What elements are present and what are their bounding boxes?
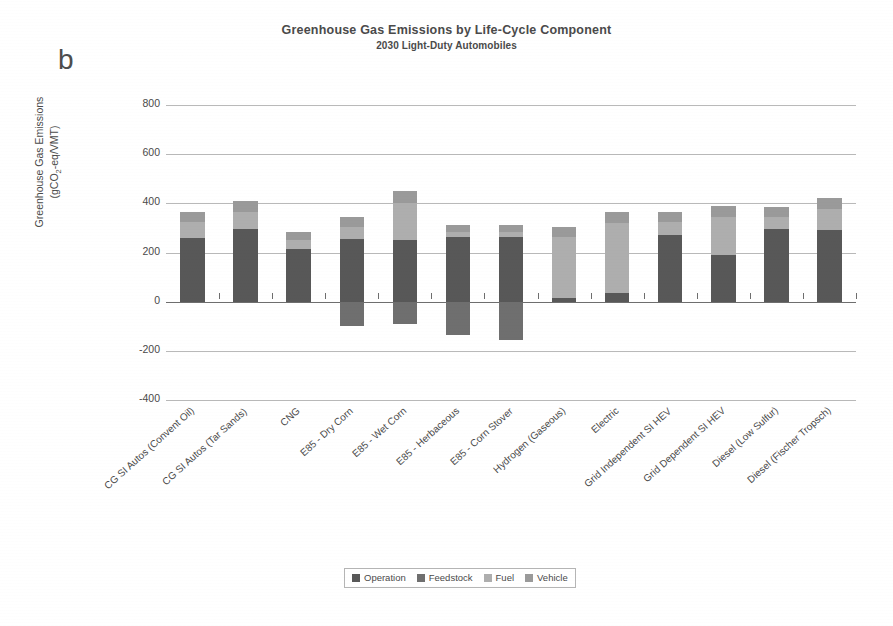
legend-item: Feedstock [417, 572, 473, 583]
legend-label: Feedstock [429, 572, 473, 583]
legend-swatch-icon [352, 574, 360, 582]
x-axis-category-label: E85 - Dry Corn [298, 405, 355, 458]
figure-panel: b Greenhouse Gas Emissions by Life-Cycle… [0, 0, 893, 626]
x-axis-category-label: CG SI Autos (Convent Oil) [102, 405, 196, 491]
legend-label: Vehicle [537, 572, 568, 583]
x-axis-category-label: E85 - Wet Corn [350, 405, 408, 459]
legend-swatch-icon [417, 574, 425, 582]
x-axis-labels: CG SI Autos (Convent Oil)CG SI Autos (Ta… [0, 0, 893, 626]
legend-item: Vehicle [525, 572, 568, 583]
x-axis-category-label: Grid Independent SI HEV [582, 405, 673, 489]
legend-label: Fuel [496, 572, 514, 583]
legend-swatch-icon [484, 574, 492, 582]
chart-legend: OperationFeedstockFuelVehicle [344, 568, 576, 588]
legend-item: Fuel [484, 572, 514, 583]
x-axis-category-label: Electric [589, 405, 621, 435]
legend-swatch-icon [525, 574, 533, 582]
legend-label: Operation [364, 572, 406, 583]
x-axis-category-label: CNG [278, 405, 302, 428]
legend-item: Operation [352, 572, 406, 583]
